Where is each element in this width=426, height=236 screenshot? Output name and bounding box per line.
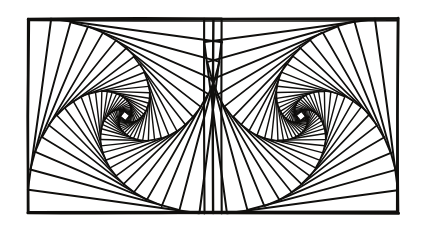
ink-stroke [213, 19, 214, 213]
ink-stroke [397, 18, 398, 213]
whirling-squares-figure [0, 0, 426, 236]
figure-root [0, 0, 426, 236]
ink-stroke [28, 19, 29, 212]
